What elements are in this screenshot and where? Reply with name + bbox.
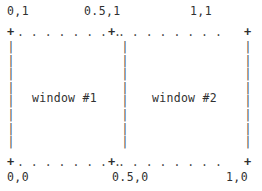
coordinate-window-diagram: 0,1 0.5,1 1,1 + . . . . . . . . + . . . … (0, 0, 262, 191)
edge-bottom-left-segment: . . . . . . . . (17, 157, 121, 169)
edge-right-column: | | | | | | | | (244, 41, 252, 150)
tick-top-left: + (7, 26, 14, 38)
label-top-right-coordinate: 1,1 (190, 6, 212, 18)
edge-top-left-segment: . . . . . . . . (17, 27, 121, 39)
tick-top-middle: + (108, 26, 115, 38)
tick-bottom-right: + (244, 156, 251, 168)
label-bottom-right-coordinate: 1,0 (226, 172, 248, 184)
edge-bottom-right-segment: . . . . . . . . (118, 157, 222, 169)
label-top-left-coordinate: 0,1 (7, 6, 29, 18)
label-bottom-middle-coordinate: 0.5,0 (112, 172, 149, 184)
edge-left-column: | | | | | | | | (7, 41, 15, 150)
edge-middle-divider-column: | | | | | | | | (121, 41, 129, 150)
label-bottom-left-coordinate: 0,0 (7, 172, 29, 184)
label-top-middle-coordinate: 0.5,1 (84, 6, 121, 18)
edge-top-right-segment: . . . . . . . . (118, 27, 222, 39)
window-1-label: window #1 (32, 93, 97, 105)
tick-top-right: + (244, 26, 251, 38)
window-2-label: window #2 (152, 93, 217, 105)
tick-bottom-left: + (7, 156, 14, 168)
tick-bottom-middle: + (108, 156, 115, 168)
